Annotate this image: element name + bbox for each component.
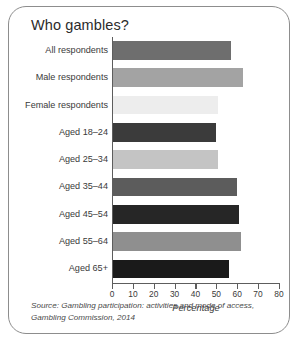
bar-all-respondents xyxy=(112,41,231,60)
x-tick-label: 0 xyxy=(110,289,115,299)
chart-title: Who gambles? xyxy=(31,17,129,33)
category-label-aged-25-34: Aged 25–34 xyxy=(23,146,108,173)
bar-row: All respondents xyxy=(23,37,279,64)
x-tick-label: 20 xyxy=(149,289,158,299)
y-axis-line xyxy=(112,37,113,283)
bar-aged-55-64 xyxy=(112,232,241,251)
x-tick-label: 50 xyxy=(212,289,221,299)
bar-row: Female respondents xyxy=(23,92,279,119)
bar-track xyxy=(112,146,279,173)
bar-aged-65-plus xyxy=(112,260,229,279)
bar-track xyxy=(112,228,279,255)
bar-aged-35-44 xyxy=(112,178,237,197)
category-label-female-respondents: Female respondents xyxy=(23,92,108,119)
bar-aged-45-54 xyxy=(112,205,239,224)
category-label-aged-45-54: Aged 45–54 xyxy=(23,201,108,228)
category-label-aged-18-24: Aged 18–24 xyxy=(23,119,108,146)
category-label-aged-55-64: Aged 55–64 xyxy=(23,228,108,255)
x-tick-label: 10 xyxy=(128,289,137,299)
category-label-male-respondents: Male respondents xyxy=(23,64,108,91)
bar-track xyxy=(112,64,279,91)
category-label-all-respondents: All respondents xyxy=(23,37,108,64)
chart-card: Who gambles? All respondents Male respon… xyxy=(8,6,290,334)
bar-row: Aged 65+ xyxy=(23,255,279,282)
category-label-aged-35-44: Aged 35–44 xyxy=(23,173,108,200)
x-tick-label: 80 xyxy=(274,289,283,299)
x-tick-label: 60 xyxy=(233,289,242,299)
bar-track xyxy=(112,201,279,228)
x-tick-label: 40 xyxy=(191,289,200,299)
bar-rows: All respondents Male respondents Female … xyxy=(23,37,279,283)
bar-aged-25-34 xyxy=(112,150,218,169)
bar-female-respondents xyxy=(112,96,218,115)
bar-track xyxy=(112,119,279,146)
bar-row: Aged 35–44 xyxy=(23,173,279,200)
bar-row: Aged 25–34 xyxy=(23,146,279,173)
bar-row: Aged 45–54 xyxy=(23,201,279,228)
bar-row: Aged 55–64 xyxy=(23,228,279,255)
chart-source-note: Source: Gambling participation: activiti… xyxy=(31,300,275,323)
chart-plot-area: All respondents Male respondents Female … xyxy=(23,37,279,285)
bar-row: Male respondents xyxy=(23,64,279,91)
bar-track xyxy=(112,255,279,282)
bar-male-respondents xyxy=(112,68,243,87)
bar-aged-18-24 xyxy=(112,123,216,142)
source-line-2: Gambling Commission, 2014 xyxy=(31,313,135,322)
x-tick-label: 30 xyxy=(170,289,179,299)
bar-track xyxy=(112,92,279,119)
category-label-aged-65-plus: Aged 65+ xyxy=(23,255,108,282)
x-tick-label: 70 xyxy=(253,289,262,299)
bar-track xyxy=(112,37,279,64)
bar-row: Aged 18–24 xyxy=(23,119,279,146)
bar-track xyxy=(112,173,279,200)
source-line-1: Source: Gambling participation: activiti… xyxy=(31,301,254,310)
